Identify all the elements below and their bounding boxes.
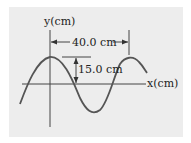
arrowhead-down-icon: [74, 77, 79, 83]
x-axis-label: x(cm): [147, 78, 178, 89]
y-axis-label: y(cm): [44, 16, 75, 27]
amplitude-label: 15.0 cm: [78, 64, 123, 75]
wavelength-label: 40.0 cm: [72, 37, 117, 48]
arrowhead-left-icon: [51, 40, 57, 45]
arrowhead-right-icon: [122, 40, 128, 45]
